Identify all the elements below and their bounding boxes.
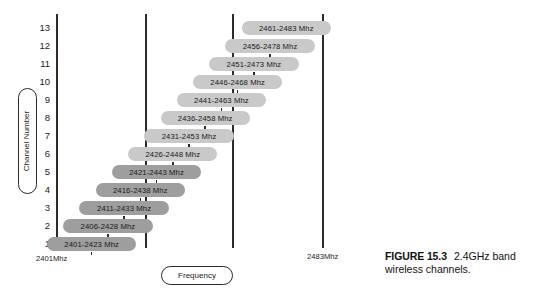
- channel-band-13: 2461-2483 Mhz: [242, 21, 331, 36]
- y-axis-label-text: Channel Number: [24, 111, 32, 171]
- y-axis-tick-12: 12: [34, 41, 50, 51]
- band-tick-8: [204, 126, 206, 129]
- channel-band-6: 2426-2448 Mhz: [128, 147, 217, 162]
- band-tick-3: [123, 216, 125, 219]
- y-axis-tick-13: 13: [34, 23, 50, 33]
- channel-band-1: 2401-2423 Mhz: [47, 237, 136, 252]
- figure-container: 12345678910111213 2401-2423 Mhz2406-2428…: [0, 0, 547, 296]
- band-tick-11: [253, 72, 255, 75]
- band-tick-1: [91, 252, 93, 255]
- x-axis-end-label: 2483Mhz: [307, 252, 338, 261]
- figure-caption: FIGURE 15.32.4GHz band wireless channels…: [385, 250, 543, 276]
- channel-band-8: 2436-2458 Mhz: [161, 111, 250, 126]
- figure-number: FIGURE 15.3: [385, 250, 447, 262]
- y-axis-tick-3: 3: [34, 203, 50, 213]
- channel-band-4: 2416-2438 Mhz: [96, 183, 185, 198]
- channel-band-10: 2446-2468 Mhz: [193, 75, 282, 90]
- channel-band-2: 2406-2428 Mhz: [63, 219, 152, 234]
- band-tick-5: [156, 180, 158, 183]
- band-tick-7: [188, 144, 190, 147]
- chart-plot-area: 12345678910111213 2401-2423 Mhz2406-2428…: [0, 0, 340, 296]
- y-axis-tick-11: 11: [34, 59, 50, 69]
- x-axis-start-label: 2401Mhz: [36, 254, 67, 263]
- y-axis-tick-2: 2: [34, 221, 50, 231]
- channel-band-3: 2411-2433 Mhz: [79, 201, 168, 216]
- band-tick-12: [269, 54, 271, 57]
- reference-line-3: [322, 14, 324, 248]
- x-axis-label: Frequency: [161, 266, 233, 285]
- x-axis-label-text: Frequency: [178, 271, 216, 280]
- channel-band-5: 2421-2443 Mhz: [112, 165, 201, 180]
- channel-band-12: 2456-2478 Mhz: [225, 39, 314, 54]
- band-tick-6: [172, 162, 174, 165]
- channel-band-7: 2431-2453 Mhz: [144, 129, 233, 144]
- channel-band-11: 2451-2473 Mhz: [209, 57, 298, 72]
- y-axis-line: [56, 14, 58, 250]
- band-tick-2: [107, 234, 109, 237]
- band-tick-9: [221, 108, 223, 111]
- band-tick-10: [237, 90, 239, 93]
- band-tick-4: [140, 198, 142, 201]
- y-axis-tick-10: 10: [34, 77, 50, 87]
- channel-band-9: 2441-2463 Mhz: [177, 93, 266, 108]
- y-axis-label: Channel Number: [18, 88, 37, 194]
